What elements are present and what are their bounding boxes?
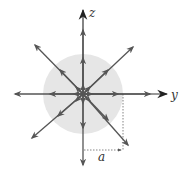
field-arrows	[15, 30, 150, 165]
y-axis-label: y	[170, 88, 178, 102]
radius-label: a	[98, 150, 105, 164]
radial-field-diagram: z y a	[0, 0, 185, 174]
z-axis-label: z	[88, 6, 96, 20]
